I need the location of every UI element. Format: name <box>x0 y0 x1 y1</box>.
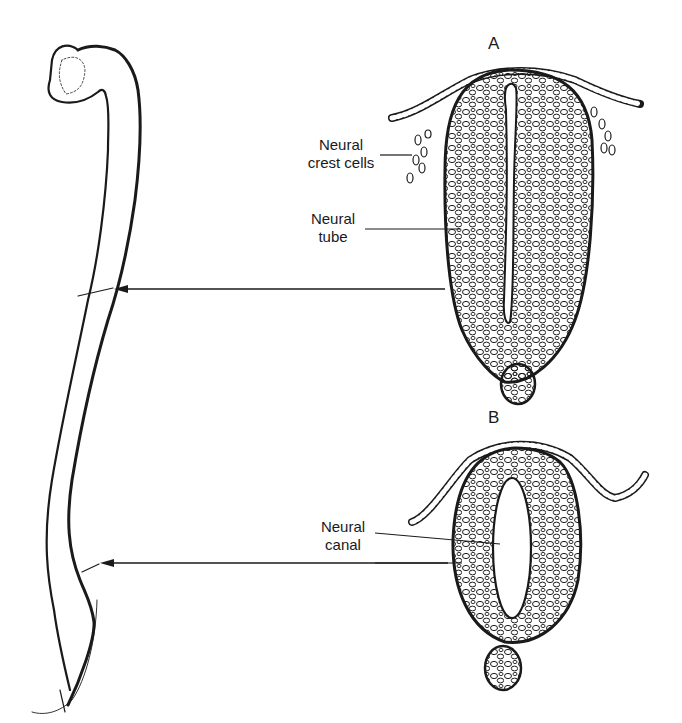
neural-tube-diagram: A B Neural crest cells Neural tube Neura… <box>0 0 682 723</box>
label-neural-canal: Neural canal <box>310 518 376 554</box>
section-b-neural-tube <box>375 445 645 690</box>
label-neural-tube-line1: Neural <box>300 210 366 228</box>
diagram-illustration <box>0 0 682 723</box>
arrow-to-section-a <box>114 285 445 293</box>
embryo-outline <box>32 46 140 714</box>
label-neural-crest-cells: Neural crest cells <box>300 136 382 172</box>
panel-letter-b: B <box>488 408 499 428</box>
label-neural-crest-line1: Neural <box>300 136 382 154</box>
label-neural-tube-line2: tube <box>300 228 366 246</box>
label-neural-crest-line2: crest cells <box>300 154 382 172</box>
label-neural-canal-line2: canal <box>310 536 376 554</box>
panel-letter-a: A <box>488 34 499 54</box>
section-a-neural-tube <box>365 70 640 404</box>
label-neural-tube: Neural tube <box>300 210 366 246</box>
label-neural-canal-line1: Neural <box>310 518 376 536</box>
